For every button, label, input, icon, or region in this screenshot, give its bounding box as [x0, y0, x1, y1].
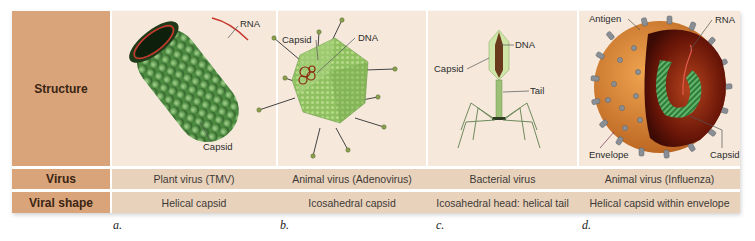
panel-letter-c: c. [436, 218, 444, 233]
virus-illustrations: RNA Capsid Capsid DNA [0, 0, 755, 241]
tmv-illustration: RNA Capsid [122, 14, 261, 155]
label-capsid-a: Capsid [203, 141, 233, 152]
label-dna-c: DNA [515, 39, 536, 50]
bacteriophage-illustration: DNA Capsid Tail [434, 30, 544, 148]
adenovirus-illustration: Capsid DNA [257, 18, 397, 158]
label-tail-c: Tail [530, 85, 544, 96]
label-capsid-d: Capsid [710, 149, 740, 160]
label-capsid-c: Capsid [434, 63, 464, 74]
panel-letter-b: b. [280, 218, 289, 233]
phage-base-plate [492, 117, 506, 120]
label-antigen-d: Antigen [589, 13, 621, 24]
influenza-illustration: Antigen RNA Envelope Capsid [589, 13, 740, 160]
label-rna-d: RNA [715, 14, 736, 25]
phage-tail [496, 80, 502, 118]
label-rna-a: RNA [240, 18, 261, 29]
panel-letter-a: a. [113, 218, 122, 233]
label-capsid-b: Capsid [282, 34, 312, 45]
label-dna-b: DNA [358, 32, 379, 43]
panel-letter-d: d. [582, 218, 591, 233]
label-envelope-d: Envelope [589, 149, 629, 160]
